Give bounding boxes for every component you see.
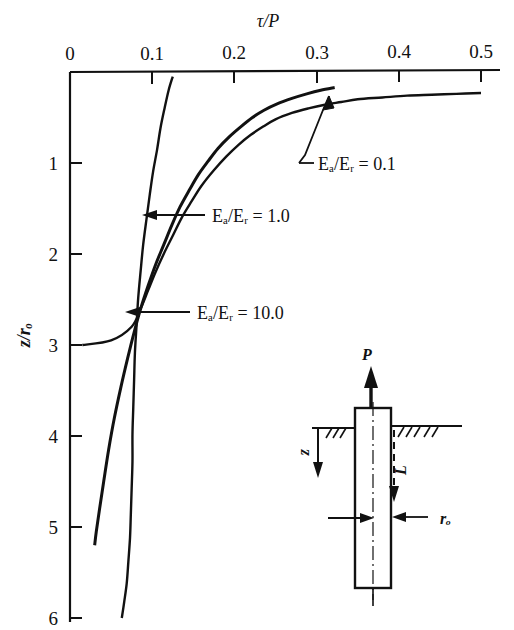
y-tick-label-4: 4 — [49, 426, 59, 447]
depth-label-z: z — [295, 448, 312, 456]
x-tick-label-1: 0.1 — [140, 43, 164, 64]
leader-arrowhead-1.0 — [142, 210, 157, 220]
curve-label-10.0: Eₐ/Eᵣ = 10.0 — [197, 303, 284, 323]
y-tick-label-2: 2 — [49, 244, 59, 265]
leader-arrowhead-10.0 — [125, 307, 140, 317]
ground-hatching-right — [398, 427, 438, 437]
pile-schematic-inset: P z — [295, 346, 462, 606]
annotation-1.0: Eₐ/Eᵣ = 1.0 — [142, 206, 290, 226]
y-axis-title: z/rₒ — [14, 323, 34, 348]
y-tick-label-1: 1 — [49, 153, 59, 174]
length-label-L: L — [392, 465, 409, 476]
annotation-10.0: Eₐ/Eᵣ = 10.0 — [125, 303, 284, 323]
y-axis-tick-labels: 1 2 3 4 5 6 — [49, 153, 59, 629]
x-tick-label-2: 0.2 — [222, 42, 246, 63]
load-arrow-head — [364, 366, 378, 388]
x-axis-line — [70, 70, 500, 72]
radius-arrow-head-right — [392, 512, 406, 522]
figure-container: 0 0.1 0.2 0.3 0.4 0.5 1 2 3 4 5 6 τ/P z/… — [0, 0, 514, 630]
y-axis-ticks — [70, 163, 82, 618]
x-tick-label-5: 0.5 — [469, 41, 493, 62]
curve-label-0.1: Eₐ/Eᵣ = 0.1 — [318, 154, 396, 174]
x-tick-label-4: 0.4 — [387, 41, 411, 62]
depth-arrow-head — [313, 462, 323, 478]
ground-hatching-left — [326, 428, 346, 438]
x-axis-tick-labels: 0 0.1 0.2 0.3 0.4 0.5 — [65, 41, 493, 64]
y-tick-label-3: 3 — [49, 335, 59, 356]
x-axis-title: τ/P — [257, 11, 279, 31]
pile-shear-stress-figure: 0 0.1 0.2 0.3 0.4 0.5 1 2 3 4 5 6 τ/P z/… — [0, 0, 514, 630]
load-label-P: P — [361, 346, 372, 363]
x-tick-label-3: 0.3 — [305, 42, 329, 63]
x-tick-label-0: 0 — [65, 43, 75, 64]
y-tick-label-5: 5 — [49, 517, 59, 538]
leader-arrowhead-0.1 — [323, 96, 334, 110]
curve-label-1.0: Eₐ/Eᵣ = 1.0 — [212, 206, 290, 226]
y-tick-label-6: 6 — [49, 608, 59, 629]
data-curves — [82, 77, 481, 618]
radius-label-r0: rₒ — [440, 510, 451, 527]
